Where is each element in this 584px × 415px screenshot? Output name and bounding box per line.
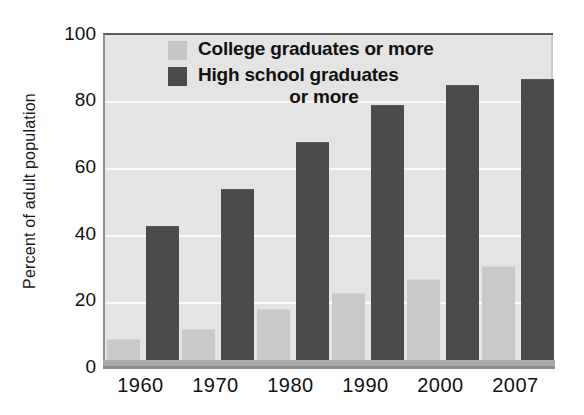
bar-college-1980 — [257, 309, 290, 367]
legend-swatch-highschool-icon — [168, 67, 187, 86]
y-axis-tick-labels: 100 80 60 40 20 0 — [44, 0, 96, 415]
y-tick-label-40: 40 — [50, 224, 96, 243]
bar-highschool-1960 — [146, 226, 179, 367]
legend-label-highschool-line1: High school graduates — [198, 64, 450, 86]
legend-label-highschool-line2: or more — [198, 86, 450, 108]
x-axis-tick-labels: 196019701980199020002007 — [103, 374, 553, 404]
x-tick-label-2007: 2007 — [478, 374, 553, 404]
legend: College graduates or more High school gr… — [168, 38, 498, 112]
legend-item-college: College graduates or more — [168, 38, 498, 60]
x-tick-label-1990: 1990 — [328, 374, 403, 404]
bar-highschool-1980 — [296, 142, 329, 367]
y-tick-label-100: 100 — [50, 24, 96, 43]
axis-baseline — [103, 366, 555, 369]
legend-label-college: College graduates or more — [198, 38, 434, 60]
bar-highschool-2000 — [446, 85, 479, 367]
bar-college-1990 — [332, 293, 365, 367]
y-tick-label-80: 80 — [50, 90, 96, 109]
bar-college-2007 — [482, 266, 515, 367]
legend-swatch-college-icon — [168, 41, 187, 60]
y-tick-label-0: 0 — [50, 357, 96, 376]
x-tick-label-1980: 1980 — [253, 374, 328, 404]
bar-highschool-2007 — [521, 79, 554, 367]
bar-highschool-1970 — [221, 189, 254, 367]
bar-college-2000 — [407, 279, 440, 367]
x-tick-label-1960: 1960 — [103, 374, 178, 404]
bar-chart: Percent of adult population 100 80 60 40… — [0, 0, 584, 415]
x-tick-label-2000: 2000 — [403, 374, 478, 404]
y-axis-title: Percent of adult population — [21, 21, 39, 361]
y-tick-label-60: 60 — [50, 157, 96, 176]
bar-highschool-1990 — [371, 105, 404, 367]
legend-item-highschool: High school graduates or more — [168, 64, 498, 108]
y-tick-label-20: 20 — [50, 290, 96, 309]
x-tick-label-1970: 1970 — [178, 374, 253, 404]
